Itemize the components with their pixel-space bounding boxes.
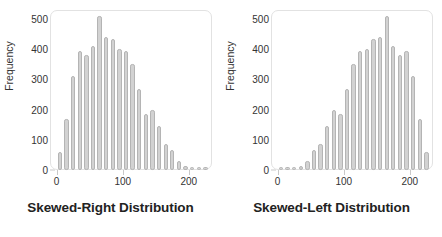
histogram-bar bbox=[411, 76, 415, 170]
y-tick-label: 200 bbox=[235, 104, 269, 115]
histogram-bar bbox=[170, 150, 174, 170]
histogram-bar bbox=[117, 49, 121, 170]
x-tick-label: 100 bbox=[324, 176, 364, 187]
y-tick-label: 400 bbox=[235, 44, 269, 55]
plot-area-left: Frequency 0100200300400500 0100200 bbox=[0, 0, 221, 200]
y-tick-label: 100 bbox=[14, 134, 48, 145]
histogram-bar bbox=[84, 55, 88, 170]
histogram-bar bbox=[345, 89, 349, 171]
histogram-bar bbox=[391, 46, 395, 170]
histogram-bar bbox=[424, 152, 428, 170]
x-axis-ticks-left: 0100200 bbox=[0, 170, 221, 196]
histogram-bar bbox=[358, 51, 362, 170]
chart-panel-skewed-right: Frequency 0100200300400500 0100200 Skewe… bbox=[0, 0, 221, 237]
histogram-bar bbox=[365, 49, 369, 170]
histogram-bar bbox=[91, 46, 95, 170]
histogram-bar bbox=[305, 161, 309, 170]
histogram-bar bbox=[385, 16, 389, 170]
histogram-bar bbox=[378, 37, 382, 170]
histogram-bar bbox=[312, 150, 316, 170]
histogram-bar bbox=[351, 64, 355, 170]
histogram-bar bbox=[332, 110, 336, 170]
histogram-bar bbox=[104, 37, 108, 170]
x-tick-label: 0 bbox=[258, 176, 298, 187]
histogram-bar bbox=[325, 126, 329, 170]
x-tick-label: 100 bbox=[103, 176, 143, 187]
histogram-bar bbox=[78, 51, 82, 170]
x-tick-label: 200 bbox=[390, 176, 430, 187]
histogram-bar bbox=[144, 114, 148, 170]
histogram-bar bbox=[150, 110, 154, 170]
histogram-bar bbox=[404, 51, 408, 170]
histogram-bar bbox=[71, 76, 75, 170]
histogram-bar bbox=[124, 51, 128, 170]
x-tick-mark bbox=[189, 170, 190, 175]
histogram-bar bbox=[97, 16, 101, 170]
x-axis-ticks-right: 0100200 bbox=[221, 170, 442, 196]
x-tick-mark bbox=[278, 170, 279, 175]
x-tick-mark bbox=[123, 170, 124, 175]
y-tick-label: 300 bbox=[14, 74, 48, 85]
histogram-bar bbox=[157, 126, 161, 170]
bars-left bbox=[50, 10, 212, 170]
histogram-bar bbox=[338, 114, 342, 170]
chart-panel-skewed-left: Frequency 0100200300400500 0100200 Skewe… bbox=[221, 0, 442, 237]
y-tick-label: 400 bbox=[14, 44, 48, 55]
histogram-bar bbox=[371, 39, 375, 170]
x-tick-mark bbox=[344, 170, 345, 175]
histogram-bar bbox=[137, 89, 141, 171]
histogram-bar bbox=[130, 64, 134, 170]
y-tick-label: 300 bbox=[235, 74, 269, 85]
y-tick-label: 100 bbox=[235, 134, 269, 145]
histogram-bar bbox=[177, 161, 181, 170]
chart-title-left: Skewed-Right Distribution bbox=[0, 200, 221, 215]
bars-right bbox=[271, 10, 433, 170]
y-tick-label: 500 bbox=[14, 14, 48, 25]
histogram-bar bbox=[164, 144, 168, 170]
histogram-bar bbox=[418, 119, 422, 170]
histogram-bar bbox=[64, 119, 68, 170]
plot-area-right: Frequency 0100200300400500 0100200 bbox=[221, 0, 442, 200]
histogram-bar bbox=[318, 144, 322, 170]
histogram-bar bbox=[111, 39, 115, 170]
histogram-bar bbox=[398, 55, 402, 170]
histogram-bar bbox=[58, 152, 62, 170]
chart-title-right: Skewed-Left Distribution bbox=[221, 200, 442, 215]
x-tick-label: 200 bbox=[169, 176, 209, 187]
y-tick-label: 200 bbox=[14, 104, 48, 115]
x-tick-mark bbox=[410, 170, 411, 175]
x-tick-label: 0 bbox=[37, 176, 77, 187]
x-tick-mark bbox=[57, 170, 58, 175]
y-tick-label: 500 bbox=[235, 14, 269, 25]
histogram-figure: Frequency 0100200300400500 0100200 Skewe… bbox=[0, 0, 442, 237]
